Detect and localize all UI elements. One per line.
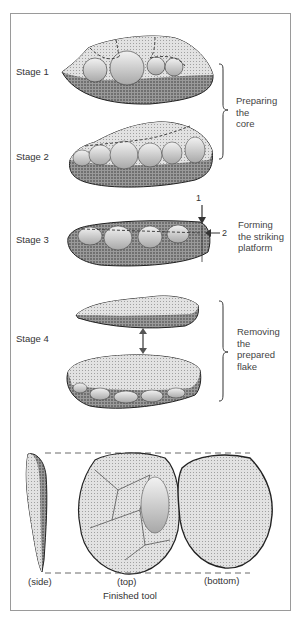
note-line: Forming (238, 219, 284, 231)
lithic-illustration (0, 0, 303, 620)
note-line: platform (238, 242, 284, 254)
note-line: the striking (238, 231, 284, 243)
bottom-view-label: (bottom) (204, 575, 239, 586)
stage-3-label: Stage 3 (16, 234, 49, 245)
note-line: the (236, 107, 277, 119)
brace-preparing-core (219, 64, 228, 159)
finished-tool-side-view (26, 454, 47, 572)
side-view-label: (side) (28, 576, 52, 587)
top-view-label: (top) (117, 576, 137, 587)
note-line: Preparing (236, 95, 277, 107)
note-line: core (236, 118, 277, 130)
stage-2-label: Stage 2 (16, 151, 49, 162)
stage-4-flake (67, 296, 201, 408)
striking-platform-note: Forming the striking platform (238, 219, 284, 254)
stage-3-core (68, 205, 220, 266)
arrow-2-label: 2 (222, 228, 227, 239)
finished-tool-bottom-view (178, 455, 272, 568)
note-line: Removing (237, 326, 280, 338)
stage-1-core (62, 36, 213, 104)
removing-flake-note: Removing the prepared flake (237, 326, 280, 372)
brace-removing-flake (219, 301, 228, 401)
stage-4-label: Stage 4 (16, 333, 49, 344)
finished-tool-top-view (79, 453, 180, 574)
note-line: prepared (237, 349, 280, 361)
finished-tool-caption: Finished tool (103, 590, 157, 601)
note-line: flake (237, 361, 280, 373)
arrow-1-label: 1 (196, 193, 201, 204)
stage-2-core (70, 122, 213, 187)
stage-1-label: Stage 1 (16, 66, 49, 77)
preparing-core-note: Preparing the core (236, 95, 277, 130)
note-line: the (237, 338, 280, 350)
